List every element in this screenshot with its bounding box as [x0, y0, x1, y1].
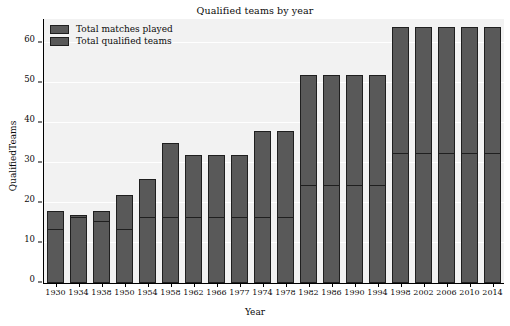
x-tick-label: 1994	[367, 288, 387, 297]
bar-2010[interactable]	[461, 27, 478, 283]
bar-1990[interactable]	[346, 75, 363, 283]
bar-slot	[320, 19, 343, 283]
bar-qualified-teams-marker	[300, 185, 317, 186]
x-tick-slot: 1934	[67, 284, 90, 306]
bar-1986[interactable]	[323, 75, 340, 283]
bar-1950[interactable]	[116, 195, 133, 283]
bar-1982[interactable]	[300, 75, 317, 283]
bar-1966[interactable]	[208, 155, 225, 283]
x-tick-label: 2002	[413, 288, 433, 297]
bar-qualified-teams-marker	[415, 153, 432, 154]
legend-swatch-matches-icon	[50, 25, 69, 34]
bar-qualified-teams-marker	[369, 185, 386, 186]
x-tick-slot: 1962	[182, 284, 205, 306]
x-tick-slot: 1978	[274, 284, 297, 306]
plot-area	[43, 19, 504, 284]
bar-slot	[136, 19, 159, 283]
y-tick-label: 0	[30, 274, 35, 284]
x-tick-label: 1958	[160, 288, 180, 297]
x-tick-slot: 1966	[205, 284, 228, 306]
x-tick-mark	[286, 284, 287, 287]
bar-1930[interactable]	[47, 211, 64, 283]
legend-item-matches: Total matches played	[50, 24, 173, 34]
chart-title: Qualified teams by year	[0, 5, 510, 16]
bar-1938[interactable]	[93, 211, 110, 283]
bar-1978[interactable]	[277, 131, 294, 283]
y-tick-label: 30	[24, 154, 35, 164]
y-tick-label: 50	[24, 74, 35, 84]
bar-2006[interactable]	[438, 27, 455, 283]
x-tick-slot: 1990	[343, 284, 366, 306]
bar-slot	[458, 19, 481, 283]
bar-slot	[366, 19, 389, 283]
bar-slot	[90, 19, 113, 283]
legend-label-matches: Total matches played	[76, 24, 173, 34]
x-tick-label: 1950	[114, 288, 134, 297]
bar-qualified-teams-marker	[346, 185, 363, 186]
x-tick-slot: 1974	[251, 284, 274, 306]
bar-slot	[67, 19, 90, 283]
bar-qualified-teams-marker	[231, 217, 248, 218]
bar-group	[44, 19, 504, 283]
x-tick-mark	[217, 284, 218, 287]
y-axis: 0102030405060	[0, 19, 40, 283]
bar-slot	[205, 19, 228, 283]
y-tick-mark	[38, 202, 42, 203]
x-tick-slot: 1958	[159, 284, 182, 306]
y-tick-mark	[38, 122, 42, 123]
bar-qualified-teams-marker	[254, 217, 271, 218]
bar-slot	[412, 19, 435, 283]
x-tick-slot: 1938	[90, 284, 113, 306]
x-tick-label: 2010	[459, 288, 479, 297]
x-tick-label: 2006	[436, 288, 456, 297]
y-tick-label: 10	[24, 234, 35, 244]
x-tick-mark	[79, 284, 80, 287]
x-tick-label: 1938	[91, 288, 111, 297]
x-tick-label: 1974	[252, 288, 272, 297]
bar-slot	[343, 19, 366, 283]
bar-qualified-teams-marker	[484, 153, 501, 154]
x-tick-slot: 1954	[136, 284, 159, 306]
x-tick-mark	[493, 284, 494, 287]
x-tick-label: 1982	[298, 288, 318, 297]
bar-1958[interactable]	[162, 143, 179, 283]
x-tick-mark	[401, 284, 402, 287]
bar-1974[interactable]	[254, 131, 271, 283]
x-tick-label: 1934	[68, 288, 88, 297]
bar-1998[interactable]	[392, 27, 409, 283]
plot-inner	[44, 19, 504, 283]
x-tick-slot: 2006	[435, 284, 458, 306]
y-axis-label: QualifiedTeams	[8, 96, 18, 216]
x-tick-mark	[240, 284, 241, 287]
x-axis: 1930193419381950195419581962196619771974…	[44, 284, 504, 306]
bar-slot	[251, 19, 274, 283]
x-tick-mark	[263, 284, 264, 287]
x-tick-label: 1978	[275, 288, 295, 297]
x-tick-slot: 1930	[44, 284, 67, 306]
x-tick-slot: 1982	[297, 284, 320, 306]
x-tick-label: 1966	[206, 288, 226, 297]
x-tick-slot: 1998	[389, 284, 412, 306]
x-tick-mark	[56, 284, 57, 287]
x-tick-mark	[194, 284, 195, 287]
bar-1954[interactable]	[139, 179, 156, 283]
bar-1934[interactable]	[70, 215, 87, 283]
bar-2002[interactable]	[415, 27, 432, 283]
bar-slot	[159, 19, 182, 283]
bar-1962[interactable]	[185, 155, 202, 283]
bar-qualified-teams-marker	[162, 217, 179, 218]
x-tick-mark	[470, 284, 471, 287]
x-tick-label: 1977	[229, 288, 249, 297]
legend-label-teams: Total qualified teams	[76, 36, 172, 46]
bar-1994[interactable]	[369, 75, 386, 283]
bar-2014[interactable]	[484, 27, 501, 283]
x-tick-slot: 2002	[412, 284, 435, 306]
bar-slot	[435, 19, 458, 283]
x-axis-label: Year	[0, 307, 510, 317]
x-tick-label: 1954	[137, 288, 157, 297]
x-tick-slot: 2010	[458, 284, 481, 306]
x-tick-label: 1998	[390, 288, 410, 297]
y-tick-label: 20	[24, 194, 35, 204]
x-tick-mark	[148, 284, 149, 287]
bar-1977[interactable]	[231, 155, 248, 283]
